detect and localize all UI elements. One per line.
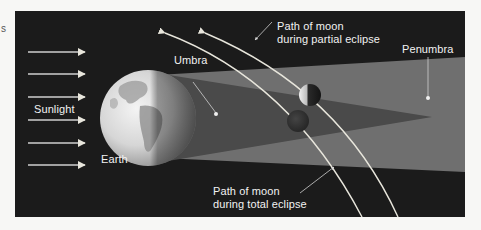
- label-sunlight: Sunlight: [34, 103, 75, 116]
- moon-partial-icon: [299, 84, 321, 106]
- label-partial-path: Path of moon during partial eclipse: [277, 20, 380, 46]
- label-earth: Earth: [101, 153, 128, 166]
- moon-total-icon: [287, 110, 309, 132]
- label-total-path-line2: during total eclipse: [213, 198, 307, 211]
- label-penumbra: Penumbra: [402, 43, 454, 56]
- label-partial-path-line2: during partial eclipse: [277, 33, 380, 46]
- lunar-eclipse-diagram: s: [0, 0, 481, 230]
- label-partial-path-line1: Path of moon: [277, 20, 380, 33]
- label-total-path-line1: Path of moon: [213, 185, 307, 198]
- label-total-path: Path of moon during total eclipse: [213, 185, 307, 211]
- label-umbra: Umbra: [174, 54, 208, 67]
- earth-globe-icon: [100, 70, 196, 166]
